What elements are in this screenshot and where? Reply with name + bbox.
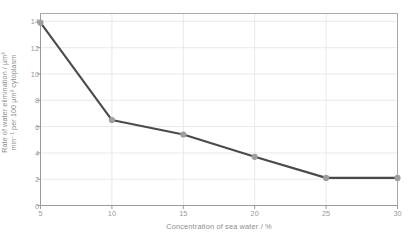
x-tick-label: 10	[100, 209, 124, 218]
y-tick-label: 2	[21, 175, 39, 184]
x-tick-label: 25	[314, 209, 338, 218]
y-tick-label: 14	[21, 17, 39, 26]
y-tick-label: 8	[21, 96, 39, 105]
x-tick-label: 30	[386, 209, 408, 218]
x-tick-label: 15	[171, 209, 195, 218]
plot-frame	[41, 14, 398, 206]
x-axis-tick-labels: 51015202530	[0, 209, 408, 223]
y-axis-tick-labels: 02468101214	[18, 0, 39, 238]
x-tick-label: 20	[243, 209, 267, 218]
gridlines	[41, 14, 398, 206]
y-tick-label: 10	[21, 69, 39, 78]
y-axis-title-line1: Rate of water elimination / µm³	[0, 0, 9, 205]
plot-area	[0, 0, 408, 238]
y-tick-label: 4	[21, 148, 39, 157]
x-axis-title: Concentration of sea water / %	[40, 222, 398, 231]
axis-ticks	[37, 21, 398, 209]
x-tick-label: 5	[29, 209, 53, 218]
y-tick-label: 12	[21, 43, 39, 52]
chart-figure: Rate of water elimination / µm³ min⁻¹ pe…	[0, 0, 408, 238]
y-tick-label: 6	[21, 122, 39, 131]
